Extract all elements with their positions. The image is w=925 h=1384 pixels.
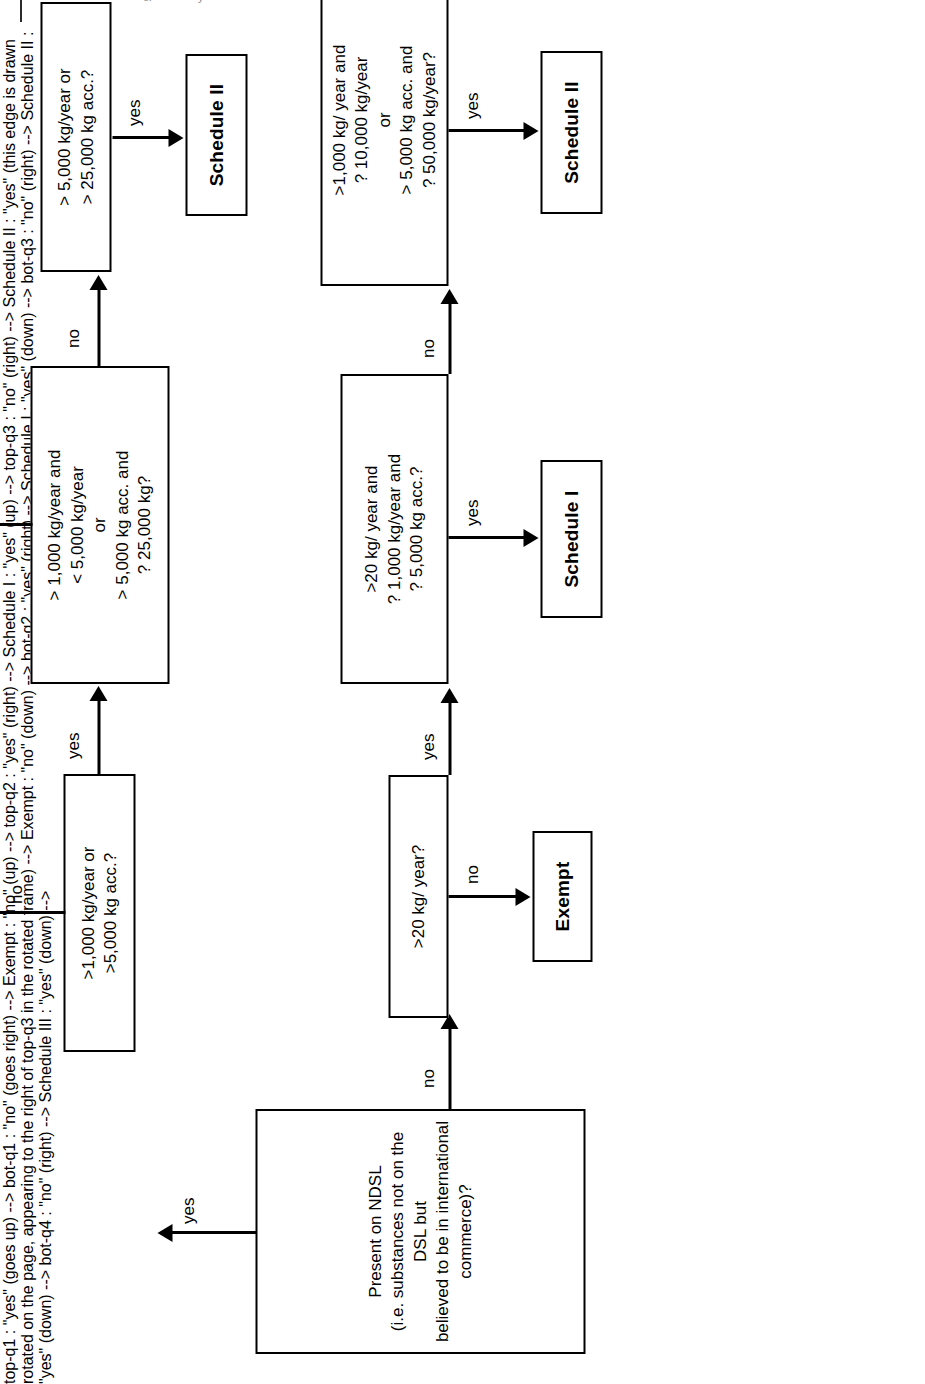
arrowhead-start-top-q1 (157, 1224, 172, 1242)
node-bot-exempt-label: Exempt (549, 862, 574, 932)
arrowhead-bot-q2-q3 (440, 289, 458, 304)
node-bot-sched2-label: Schedule II (558, 81, 583, 184)
edge-bot-q2-sched1 (448, 536, 526, 539)
edge-start-top-q1 (170, 1231, 256, 1234)
arrowhead-top-q3-sched2 (168, 129, 183, 147)
node-top-q1-label: >1,000 kg/year or >5,000 kg acc.? (77, 847, 122, 980)
edge-bot-q1-q2 (448, 701, 451, 775)
node-top-q3-label: > 5,000 kg/year or > 25,000 kg acc.? (53, 68, 98, 206)
edge-label-top-q1-no: no (6, 885, 26, 904)
arrowhead-bot-q3-sched2 (523, 122, 538, 140)
node-top-sched2[interactable]: Schedule II (185, 54, 247, 216)
edge-bot-q1-exempt (448, 895, 518, 898)
edge-top-q1-exempt (0, 911, 65, 914)
edge-label-bot-q2-no: no (418, 339, 438, 358)
node-bot-sched2[interactable]: Schedule II (540, 51, 602, 214)
decision-flowchart: Present on NDSL (i.e. substances not on … (0, 0, 925, 1384)
node-bot-sched1[interactable]: Schedule I (540, 460, 602, 618)
edge-top-q2-q3 (97, 288, 100, 366)
node-bot-sched1-label: Schedule I (558, 490, 583, 587)
node-bot-q1-label: >20 kg/ year? (407, 845, 429, 949)
node-bot-exempt[interactable]: Exempt (532, 831, 592, 962)
node-top-sched2-label: Schedule II (203, 84, 228, 187)
edge-start-bot-q1 (448, 1027, 451, 1109)
arrowhead-bot-q1-exempt (515, 888, 530, 906)
edge-label-start-no: no (418, 1069, 438, 1088)
arrowhead-bot-q2-sched1 (523, 529, 538, 547)
edge-label-start-yes: yes (178, 1198, 198, 1224)
node-bot-q2-label: >20 kg/ year and ? 1,000 kg/year and ? 5… (360, 454, 427, 604)
node-top-q3[interactable]: > 5,000 kg/year or > 25,000 kg acc.? (40, 2, 111, 272)
edge-label-top-q2-no: no (63, 329, 83, 348)
node-top-q1[interactable]: >1,000 kg/year or >5,000 kg acc.? (63, 774, 135, 1052)
arrowhead-top-q2-q3 (89, 275, 107, 290)
node-bot-q1[interactable]: >20 kg/ year? (388, 775, 448, 1018)
edge-top-q2-sched1 (0, 523, 32, 526)
arrowhead-top-q1-q2 (89, 686, 107, 701)
edge-label-bot-q1-no: no (462, 865, 482, 884)
node-bot-q3[interactable]: >1,000 kg/ year and ? 10,000 kg/year or … (320, 0, 448, 286)
edge-label-bot-q3-yes: yes (462, 93, 482, 119)
edge-label-bot-q1-yes: yes (418, 734, 438, 760)
node-bot-q3-label: >1,000 kg/ year and ? 10,000 kg/year or … (328, 45, 440, 196)
edge-label-bot-q2-yes: yes (462, 500, 482, 526)
node-top-q2[interactable]: > 1,000 kg/year and < 5,000 kg/year or >… (30, 366, 169, 684)
arrowhead-bot-q1-q2 (440, 688, 458, 703)
edge-top-q1-q2 (97, 699, 100, 774)
edge-top-q3-sched2 (112, 136, 170, 139)
node-top-q2-label: > 1,000 kg/year and < 5,000 kg/year or >… (43, 450, 155, 601)
node-bot-q2[interactable]: >20 kg/ year and ? 1,000 kg/year and ? 5… (340, 374, 448, 684)
node-start[interactable]: Present on NDSL (i.e. substances not on … (255, 1109, 585, 1354)
edge-label-top-q1-yes: yes (63, 733, 83, 759)
edge-bot-q3-sched2 (448, 129, 526, 132)
screenshot-canvas: or y Present on NDSL (i.e. substances no… (0, 0, 925, 1384)
node-start-label: Present on NDSL (i.e. substances not on … (364, 1117, 476, 1346)
edge-label-top-q3-yes: yes (124, 100, 144, 126)
edge-bot-q2-q3 (448, 302, 451, 374)
